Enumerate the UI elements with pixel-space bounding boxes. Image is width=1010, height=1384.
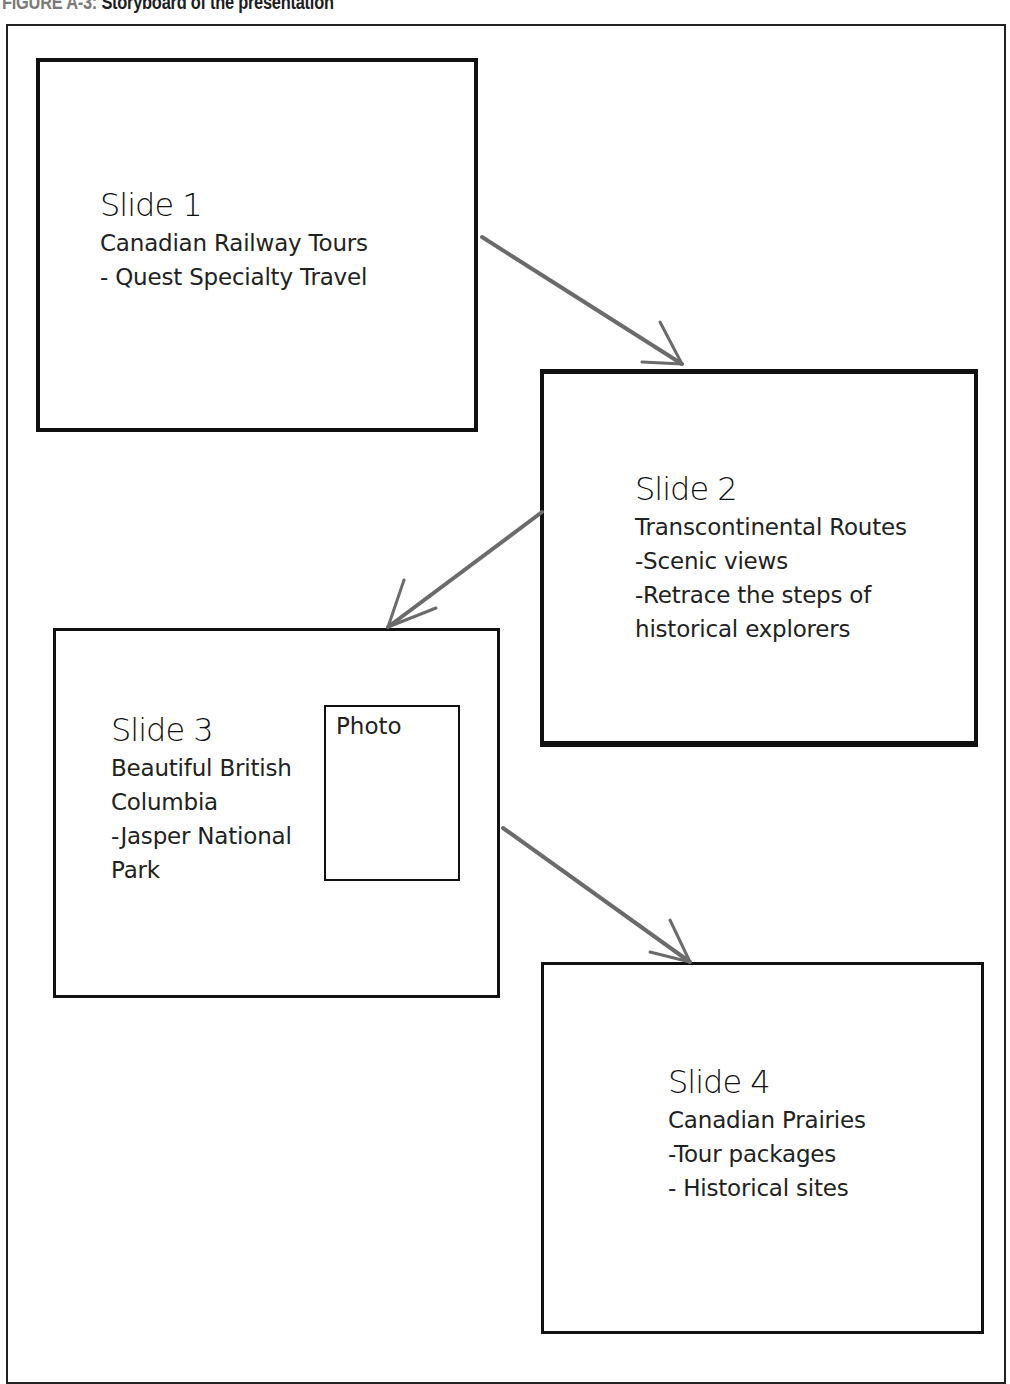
- slide-2-title: Slide 2: [635, 468, 907, 510]
- slide-3-content: Slide 3 Beautiful British Columbia -Jasp…: [111, 709, 292, 887]
- slide-2-line: historical explorers: [635, 612, 907, 646]
- slide-3-title: Slide 3: [111, 709, 292, 751]
- slide-2-box: Slide 2 Transcontinental Routes -Scenic …: [540, 369, 978, 747]
- slide-1-line: Canadian Railway Tours: [100, 226, 368, 260]
- slide-4-line: - Historical sites: [668, 1171, 866, 1205]
- slide-2-line: Transcontinental Routes: [635, 510, 907, 544]
- photo-label: Photo: [336, 713, 402, 739]
- slide-4-title: Slide 4: [668, 1061, 866, 1103]
- slide-1-title: Slide 1: [100, 184, 368, 226]
- slide-1-line: - Quest Specialty Travel: [100, 260, 368, 294]
- slide-3-box: Slide 3 Beautiful British Columbia -Jasp…: [53, 628, 500, 998]
- slide-4-line: -Tour packages: [668, 1137, 866, 1171]
- slide-2-content: Slide 2 Transcontinental Routes -Scenic …: [635, 468, 907, 646]
- slide-1-box: Slide 1 Canadian Railway Tours - Quest S…: [36, 58, 478, 432]
- slide-2-line: -Retrace the steps of: [635, 578, 907, 612]
- slide-1-content: Slide 1 Canadian Railway Tours - Quest S…: [100, 184, 368, 294]
- slide-3-line: -Jasper National: [111, 819, 292, 853]
- slide-4-content: Slide 4 Canadian Prairies -Tour packages…: [668, 1061, 866, 1205]
- figure-label: FIGURE A-3:: [2, 0, 97, 13]
- slide-3-line: Park: [111, 853, 292, 887]
- slide-2-line: -Scenic views: [635, 544, 907, 578]
- slide-4-line: Canadian Prairies: [668, 1103, 866, 1137]
- slide-4-box: Slide 4 Canadian Prairies -Tour packages…: [541, 962, 984, 1334]
- figure-caption: FIGURE A-3: Storyboard of the presentati…: [2, 0, 334, 14]
- figure-title: Storyboard of the presentation: [101, 0, 333, 13]
- slide-3-line: Beautiful British: [111, 751, 292, 785]
- slide-3-line: Columbia: [111, 785, 292, 819]
- photo-placeholder: Photo: [324, 705, 460, 881]
